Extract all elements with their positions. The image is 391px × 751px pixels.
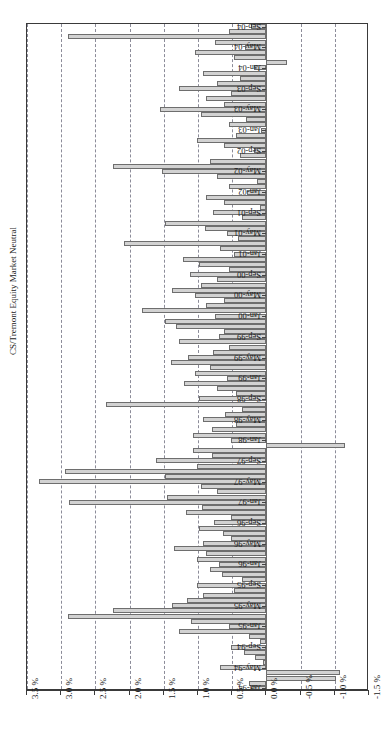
chart-axis-title: CS/Tremont Equity Market Neutral — [8, 227, 18, 355]
bar — [156, 458, 267, 463]
bar — [195, 371, 267, 376]
bar — [160, 107, 266, 112]
bar — [266, 443, 345, 448]
bar — [242, 577, 266, 582]
bar — [214, 520, 266, 525]
bar — [242, 407, 266, 412]
chart-figure: CS/Tremont Equity Market Neutral Jan-94M… — [0, 0, 391, 751]
bar — [187, 598, 266, 603]
bar — [263, 660, 266, 665]
bar — [254, 65, 266, 70]
bar — [213, 350, 266, 355]
bar — [199, 262, 266, 267]
bar — [205, 226, 267, 231]
bar — [220, 665, 267, 670]
bar — [236, 422, 267, 427]
x-axis-tick-label: 0.5 % — [235, 678, 245, 699]
bar — [212, 427, 267, 432]
bar — [261, 128, 266, 133]
bar — [224, 143, 266, 148]
x-axis-tick-label: 3.0 % — [64, 678, 74, 699]
bar — [190, 272, 267, 277]
bar — [231, 536, 267, 541]
bar — [68, 34, 266, 39]
x-axis-tick — [94, 690, 95, 695]
bar — [255, 655, 267, 660]
bar — [176, 324, 266, 329]
bar — [197, 583, 267, 588]
bar — [224, 200, 266, 205]
bar — [240, 153, 266, 158]
bar — [183, 257, 266, 262]
bar — [242, 215, 266, 220]
bar — [197, 464, 267, 469]
x-axis-tick — [265, 690, 266, 695]
bar — [191, 619, 266, 624]
bar — [217, 386, 266, 391]
bar — [234, 252, 267, 257]
bar — [206, 551, 266, 556]
bar — [165, 221, 266, 226]
x-axis-tick-label: 2.5 % — [98, 678, 108, 699]
x-axis-tick — [300, 690, 301, 695]
bar — [231, 645, 267, 650]
bar — [203, 71, 266, 76]
bar — [238, 236, 267, 241]
bar — [210, 159, 266, 164]
bar — [206, 195, 266, 200]
bar — [225, 412, 266, 417]
bar — [106, 402, 267, 407]
bar — [227, 376, 267, 381]
x-axis-tick — [163, 690, 164, 695]
bar — [142, 308, 266, 313]
bar — [195, 293, 267, 298]
bar — [179, 339, 267, 344]
bar — [167, 495, 266, 500]
bar — [260, 639, 267, 644]
bar — [236, 133, 267, 138]
x-axis-tick — [334, 690, 335, 695]
bar — [68, 614, 266, 619]
x-axis-tick-label: 2.0 % — [133, 678, 143, 699]
bar — [229, 345, 267, 350]
bar — [229, 624, 267, 629]
bar — [229, 29, 267, 34]
bar — [186, 510, 267, 515]
bar — [219, 334, 267, 339]
bar — [113, 608, 267, 613]
plot-area: Jan-94May-94Sep-94Jan-95May-95Sep-95Jan-… — [26, 23, 368, 690]
bar — [174, 546, 266, 551]
bar — [199, 526, 266, 531]
bar — [197, 557, 267, 562]
bar — [212, 453, 267, 458]
bar — [179, 86, 267, 91]
bar — [249, 681, 266, 686]
bar — [231, 438, 267, 443]
x-axis-tick-label: -0.5 % — [304, 675, 314, 699]
bar — [201, 283, 266, 288]
bar — [217, 174, 266, 179]
bar — [172, 603, 266, 608]
bar-series — [27, 24, 367, 689]
bar — [231, 515, 267, 520]
x-axis-tick-label: 1.5 % — [167, 678, 177, 699]
bar — [247, 190, 266, 195]
x-axis-tick — [197, 690, 198, 695]
bar — [193, 433, 267, 438]
bar — [201, 112, 266, 117]
x-axis-tick — [60, 690, 61, 695]
x-axis-tick — [129, 690, 130, 695]
bar — [165, 474, 266, 479]
bar — [203, 417, 266, 422]
bar — [249, 634, 267, 639]
bar — [223, 531, 267, 536]
bar — [244, 650, 267, 655]
x-axis-tick-label: -1.5 % — [372, 675, 382, 699]
bar — [179, 629, 267, 634]
bar — [224, 298, 266, 303]
bar — [254, 148, 266, 153]
x-axis-tick — [231, 690, 232, 695]
bar — [65, 469, 267, 474]
bar — [224, 102, 266, 107]
bar — [184, 381, 266, 386]
